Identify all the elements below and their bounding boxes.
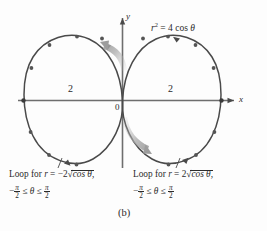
left-note-eq: = −2 [50, 169, 67, 179]
right-domain-frac1: π2 [138, 184, 144, 200]
right-note-radical: √cos θ, [186, 170, 213, 179]
equation-rest: = 4 cos [160, 23, 188, 33]
right-domain-rel2: ≤ [161, 186, 166, 196]
y-axis-label: y [126, 12, 130, 21]
direction-arrowheads [64, 37, 189, 166]
right-note-prefix: Loop for [133, 169, 166, 179]
right-note-var: r [168, 169, 172, 179]
right-note-eq: = 2 [174, 169, 186, 179]
equation-theta: θ [190, 23, 195, 33]
left-domain-var: θ [30, 186, 35, 196]
left-loop-note: Loop for r = −2√cos θ, [9, 170, 94, 179]
left-domain-frac1: π2 [14, 184, 20, 200]
right-domain-frac2: π2 [168, 184, 174, 200]
figure-caption: (b) [118, 208, 130, 219]
left-note-radical: √cos θ, [68, 170, 95, 179]
right-loop-note: Loop for r = 2√cos θ, [133, 170, 213, 179]
polar-curve-figure: r2 = 4 cos θ x y 0 2 2 Loop for r = −2√c… [0, 0, 267, 231]
left-domain-frac2: π2 [44, 184, 50, 200]
right-domain-var: θ [154, 186, 159, 196]
left-note-var: r [44, 169, 48, 179]
sweep-arrow-lower [122, 117, 152, 154]
left-domain-rel2: ≤ [37, 186, 42, 196]
right-domain-rel1: ≤ [146, 186, 151, 196]
right-radius-label: 2 [168, 84, 173, 94]
equation-exponent: 2 [155, 21, 158, 28]
equation-label: r2 = 4 cos θ [151, 22, 195, 34]
left-domain-rel1: ≤ [22, 186, 27, 196]
left-note-prefix: Loop for [9, 169, 42, 179]
right-loop-domain: −π2 ≤ θ ≤ π2 [133, 184, 174, 200]
origin-label: 0 [115, 103, 120, 112]
left-loop-domain: −π2 ≤ θ ≤ π2 [9, 184, 50, 200]
x-axis [18, 98, 234, 103]
x-axis-label: x [239, 95, 243, 104]
left-radius-label: 2 [68, 84, 73, 94]
